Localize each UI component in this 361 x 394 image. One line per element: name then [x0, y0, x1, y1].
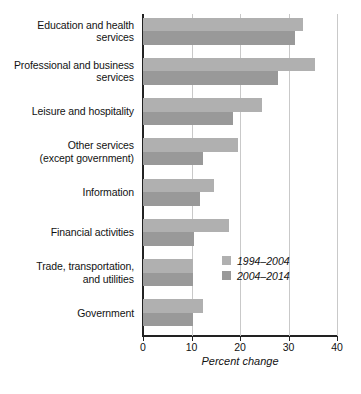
- bar: [143, 219, 229, 233]
- plot-area: 010203040: [143, 14, 337, 336]
- x-tick-label-30: 30: [283, 341, 295, 353]
- category-label-line: Other services: [0, 139, 134, 152]
- category-label-line: and utilities: [0, 273, 134, 286]
- category-label-line: Leisure and hospitality: [0, 105, 134, 118]
- legend-swatch: [222, 271, 231, 280]
- x-tick-label-40: 40: [331, 341, 343, 353]
- bar: [143, 31, 295, 45]
- category-label-line: Education and health: [0, 19, 134, 32]
- x-tick-label-10: 10: [186, 341, 198, 353]
- category-label: Education and healthservices: [0, 19, 134, 44]
- category-label: Other services(except government): [0, 139, 134, 164]
- bar: [143, 192, 200, 206]
- bar: [143, 58, 315, 72]
- category-label-line: Financial activities: [0, 226, 134, 239]
- category-label: Trade, transportation,and utilities: [0, 260, 134, 285]
- bar: [143, 259, 193, 273]
- legend-label: 1994–2004: [237, 255, 290, 267]
- category-label: Financial activities: [0, 226, 134, 239]
- gridline-40: [337, 14, 338, 336]
- category-label: Government: [0, 307, 134, 320]
- bar: [143, 179, 214, 193]
- x-tick-label-20: 20: [234, 341, 246, 353]
- category-label-line: Trade, transportation,: [0, 260, 134, 273]
- bar: [143, 313, 193, 327]
- bar: [143, 299, 203, 313]
- category-labels: Education and healthservicesProfessional…: [0, 14, 134, 336]
- category-label: Information: [0, 186, 134, 199]
- bar: [143, 273, 193, 287]
- x-tick-label-0: 0: [140, 341, 146, 353]
- category-label-line: services: [0, 71, 134, 84]
- category-label-line: Information: [0, 186, 134, 199]
- category-label-line: Government: [0, 307, 134, 320]
- category-label-line: (except government): [0, 152, 134, 165]
- legend-label: 2004–2014: [237, 270, 290, 282]
- legend: 1994–20042004–2014: [222, 253, 290, 283]
- category-label-line: Professional and business: [0, 59, 134, 72]
- bar: [143, 152, 203, 166]
- legend-item: 1994–2004: [222, 253, 290, 268]
- bar: [143, 98, 262, 112]
- bar: [143, 232, 194, 246]
- legend-swatch: [222, 256, 231, 265]
- bar: [143, 18, 303, 32]
- bar-chart: Education and healthservicesProfessional…: [0, 0, 361, 394]
- category-label-line: services: [0, 31, 134, 44]
- bar: [143, 112, 233, 126]
- x-axis-title: Percent change: [143, 355, 337, 367]
- legend-item: 2004–2014: [222, 268, 290, 283]
- bar: [143, 138, 238, 152]
- bar: [143, 71, 278, 85]
- category-label: Professional and businessservices: [0, 59, 134, 84]
- category-label: Leisure and hospitality: [0, 105, 134, 118]
